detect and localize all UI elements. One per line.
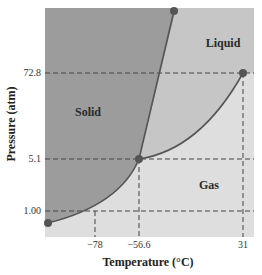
phase-diagram-chart: Solid Liquid Gas 72.8 5.1 1.00 −78 −56.6… bbox=[0, 0, 262, 275]
solid-label: Solid bbox=[75, 105, 101, 119]
melting-curve-end-point bbox=[170, 7, 178, 15]
gas-label: Gas bbox=[199, 178, 219, 192]
y-tick-72.8: 72.8 bbox=[24, 67, 42, 78]
x-tick-neg78: −78 bbox=[87, 239, 103, 250]
triple-point bbox=[135, 155, 143, 163]
liquid-label: Liquid bbox=[206, 36, 241, 50]
y-tick-5.1: 5.1 bbox=[29, 153, 42, 164]
x-tick-neg56.6: −56.6 bbox=[127, 239, 150, 250]
sublimation-start-point bbox=[44, 219, 52, 227]
critical-point bbox=[239, 69, 247, 77]
x-axis-label: Temperature (°C) bbox=[102, 255, 193, 269]
y-tick-1.00: 1.00 bbox=[24, 205, 42, 216]
y-axis-label: Pressure (atm) bbox=[4, 86, 18, 161]
x-tick-31: 31 bbox=[238, 239, 248, 250]
